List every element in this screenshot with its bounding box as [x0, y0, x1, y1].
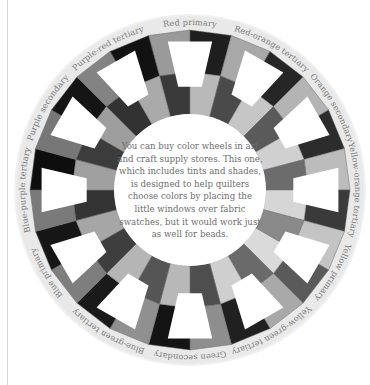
caption-text: You can buy color wheels in art and craf… — [117, 140, 263, 241]
